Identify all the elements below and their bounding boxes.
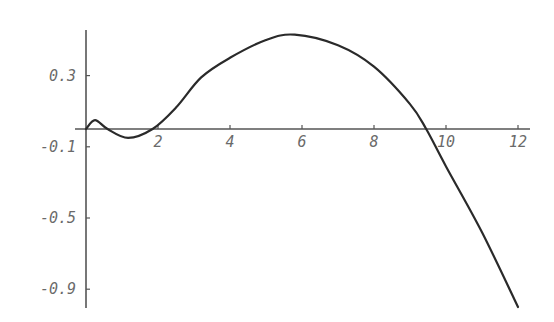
x-tick-label: 8: [369, 133, 378, 151]
x-tick-label: 2: [153, 133, 162, 151]
x-tick-label: 4: [225, 133, 234, 151]
y-tick-label: -0.5: [40, 209, 76, 227]
y-ticks: 0.3-0.1-0.5-0.9: [40, 67, 90, 299]
y-tick-label: -0.1: [40, 138, 76, 156]
x-tick-label: 10: [437, 133, 455, 151]
data-curve: [86, 35, 518, 307]
x-tick-label: 6: [297, 133, 306, 151]
x-tick-label: 12: [509, 133, 527, 151]
axes: [75, 30, 530, 308]
line-chart: 24681012 0.3-0.1-0.5-0.9: [0, 0, 554, 322]
y-tick-label: 0.3: [49, 67, 76, 85]
y-tick-label: -0.9: [40, 280, 76, 298]
